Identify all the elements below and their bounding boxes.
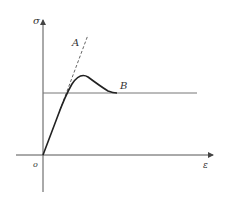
stress-strain-curve <box>43 76 117 155</box>
stress-strain-diagram: σ ε o A B <box>0 0 225 201</box>
point-b-label: B <box>119 80 127 91</box>
point-a-label: A <box>71 37 79 48</box>
origin-label: o <box>33 160 38 169</box>
x-axis-label: ε <box>203 160 208 170</box>
y-axis-label: σ <box>33 15 41 26</box>
